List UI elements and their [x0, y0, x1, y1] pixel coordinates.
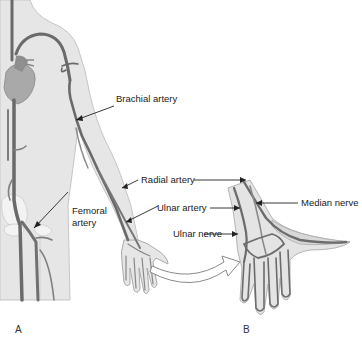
label-median-nerve: Median nerve	[301, 197, 359, 208]
anatomy-diagram: Brachial artery Femoral artery Radial ar…	[0, 0, 362, 342]
label-ulnar-artery: Ulnar artery	[157, 202, 207, 213]
label-femoral-artery-2: artery	[72, 217, 97, 228]
body-silhouette	[0, 0, 168, 300]
label-femoral-artery-1: Femoral	[72, 205, 107, 216]
panel-label-a: A	[15, 324, 22, 335]
panel-label-b: B	[243, 324, 250, 335]
label-brachial-artery: Brachial artery	[116, 93, 177, 104]
label-radial-artery: Radial artery	[141, 174, 195, 185]
label-ulnar-nerve: Ulnar nerve	[173, 228, 222, 239]
